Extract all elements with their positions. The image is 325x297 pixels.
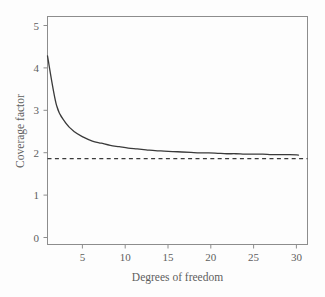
y-tick-label-5: 5 xyxy=(34,20,40,32)
y-axis-tick-labels: 0 1 2 3 4 5 xyxy=(34,20,40,244)
x-axis-tick-labels: 5 10 15 20 25 30 xyxy=(80,251,303,263)
y-tick-label-4: 4 xyxy=(34,62,40,74)
coverage-factor-line-chart: 0 1 2 3 4 5 5 10 15 20 25 30 xyxy=(0,0,325,297)
y-axis-ticks xyxy=(44,26,48,238)
y-tick-label-3: 3 xyxy=(34,104,40,116)
y-tick-label-2: 2 xyxy=(34,147,40,159)
plot-frame xyxy=(48,17,308,245)
x-tick-label-30: 30 xyxy=(291,251,303,263)
x-axis-title: Degrees of freedom xyxy=(132,271,223,284)
x-tick-label-10: 10 xyxy=(120,251,132,263)
chart-figure: 0 1 2 3 4 5 5 10 15 20 25 30 xyxy=(0,0,325,297)
x-axis-ticks xyxy=(82,245,296,249)
x-tick-label-15: 15 xyxy=(163,251,175,263)
x-tick-label-25: 25 xyxy=(248,251,260,263)
coverage-factor-curve xyxy=(48,56,299,155)
x-tick-label-20: 20 xyxy=(205,251,217,263)
y-tick-label-0: 0 xyxy=(34,232,40,244)
y-axis-title: Coverage factor xyxy=(14,94,27,168)
y-tick-label-1: 1 xyxy=(34,189,40,201)
x-tick-label-5: 5 xyxy=(80,251,86,263)
